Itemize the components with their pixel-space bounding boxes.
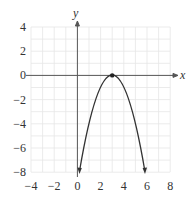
- x-tick: 4: [121, 179, 127, 193]
- y-tick: −4: [13, 117, 26, 131]
- axes: [26, 21, 178, 177]
- y-tick: 0: [20, 68, 26, 82]
- y-tick: −6: [13, 141, 26, 155]
- x-axis-label: x: [179, 68, 186, 82]
- curve-arrow-right-icon: [143, 168, 147, 175]
- y-axis-label: y: [72, 6, 79, 20]
- curve-arrow-left-icon: [77, 168, 81, 175]
- y-tick: −2: [13, 93, 26, 107]
- x-tick: 2: [98, 179, 104, 193]
- x-tick: −4: [25, 179, 38, 193]
- y-tick-labels: 4 2 0 −2 −4 −6 −8: [13, 20, 26, 179]
- y-tick: 4: [20, 20, 26, 34]
- x-tick: 0: [74, 179, 80, 193]
- y-tick: 2: [20, 44, 26, 58]
- y-tick: −8: [13, 165, 26, 179]
- x-tick: 6: [144, 179, 150, 193]
- y-axis-arrow-icon: [75, 21, 79, 26]
- grid: [31, 27, 170, 172]
- parabola-chart: x y 4 2 0 −2 −4 −6 −8 −4 −2 0 2 4 6 8: [0, 0, 192, 200]
- x-tick-labels: −4 −2 0 2 4 6 8: [25, 179, 174, 193]
- x-tick: 8: [167, 179, 173, 193]
- x-tick: −2: [48, 179, 61, 193]
- vertex-point: [110, 73, 114, 77]
- x-axis-arrow-icon: [173, 73, 178, 77]
